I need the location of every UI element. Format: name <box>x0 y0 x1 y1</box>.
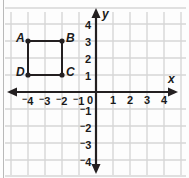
vertex-label-a: A <box>16 32 25 44</box>
x-tick-neg4: −4 <box>22 95 33 107</box>
x-tick-neg3: −3 <box>39 95 50 107</box>
vertex-point-c <box>59 72 64 77</box>
coordinate-plane-graphic <box>0 0 189 178</box>
y-tick-neg3: −3 <box>80 139 91 151</box>
vertex-point-d <box>25 72 30 77</box>
x-tick-1: 1 <box>110 95 116 106</box>
x-axis-left-arrowhead <box>7 88 17 97</box>
y-tick-1: 1 <box>85 71 91 82</box>
x-tick-neg2: −2 <box>56 95 67 107</box>
y-tick-neg1: −1 <box>80 105 91 117</box>
y-tick-4: 4 <box>85 20 91 31</box>
x-axis-label: x <box>168 73 175 85</box>
y-tick-2: 2 <box>85 54 91 65</box>
vertex-label-c: C <box>66 66 75 78</box>
coordinate-plane-figure: A B C D y x −4 −3 −2 −1 0 1 2 3 4 4 3 2 … <box>0 0 189 178</box>
x-tick-3: 3 <box>144 95 150 106</box>
x-tick-2: 2 <box>127 95 133 106</box>
x-axis-right-arrowhead <box>168 88 178 97</box>
y-tick-neg4: −4 <box>80 156 91 168</box>
y-axis-top-arrowhead <box>92 8 101 18</box>
y-axis-bottom-arrowhead <box>92 164 101 174</box>
y-tick-3: 3 <box>85 37 91 48</box>
y-tick-neg2: −2 <box>80 122 91 134</box>
vertex-label-b: B <box>66 32 75 44</box>
vertex-point-a <box>25 38 30 43</box>
x-tick-4: 4 <box>161 95 167 106</box>
vertex-point-b <box>59 38 64 43</box>
vertex-label-d: D <box>16 66 25 78</box>
y-axis-label: y <box>102 8 109 20</box>
